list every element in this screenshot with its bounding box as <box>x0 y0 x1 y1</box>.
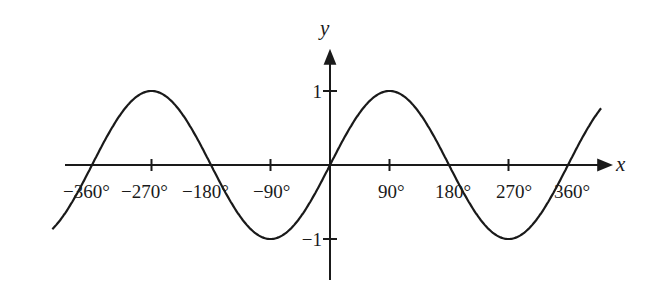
x-tick-label: −270° <box>121 181 168 202</box>
x-tick-labels: −360°−270°−180°−90°90°180°270°360° <box>63 181 590 202</box>
x-tick-label: −90° <box>253 181 290 202</box>
x-tick-label: 270° <box>496 181 532 202</box>
y-tick-label: −1 <box>302 229 322 250</box>
x-tick-label: 180° <box>435 181 471 202</box>
y-axis-label: y <box>318 16 330 40</box>
sine-graph: x y −360°−270°−180°−90°90°180°270°360° 1… <box>0 0 655 295</box>
x-tick-label: −360° <box>63 181 110 202</box>
x-axis-label: x <box>615 152 626 176</box>
y-tick-label: 1 <box>313 81 323 102</box>
x-tick-label: 90° <box>378 181 405 202</box>
x-tick-label: −180° <box>182 181 229 202</box>
x-tick-label: 360° <box>554 181 590 202</box>
